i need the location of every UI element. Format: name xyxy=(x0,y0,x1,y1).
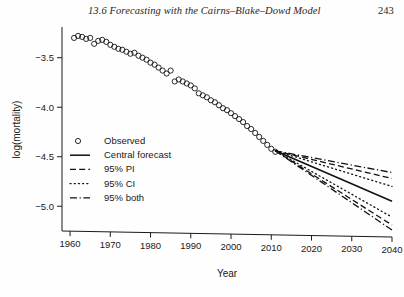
x-tick-label: 2040 xyxy=(381,244,402,255)
observed-point xyxy=(249,126,254,131)
chart-canvas: −3.5−4.0−4.5−5.0196019701980199020002010… xyxy=(0,22,404,297)
x-tick-label: 2000 xyxy=(220,241,241,252)
book-page: 13.6 Forecasting with the Cairns–Blake–D… xyxy=(0,0,404,297)
x-tick-label: 1960 xyxy=(59,238,80,249)
axes-group: −3.5−4.0−4.5−5.0196019701980199020002010… xyxy=(35,27,402,255)
forecast-line xyxy=(275,151,392,217)
legend-group: ObservedCentral forecast95% PI95% CI95% … xyxy=(70,135,171,203)
legend-label: 95% CI xyxy=(104,178,135,189)
labels-group: log(mortality)Year xyxy=(11,101,238,279)
legend-label: 95% PI xyxy=(104,163,135,174)
forecast-line xyxy=(275,151,392,179)
running-head: 13.6 Forecasting with the Cairns–Blake–D… xyxy=(0,2,404,24)
observed-points xyxy=(71,33,277,154)
forecast-line xyxy=(275,151,392,187)
forecast-line xyxy=(275,151,392,202)
observed-point xyxy=(253,130,258,135)
observed-point xyxy=(257,134,262,139)
legend-label: 95% both xyxy=(104,192,144,203)
y-tick-label: −3.5 xyxy=(35,52,54,63)
observed-point xyxy=(240,119,245,124)
observed-point xyxy=(192,86,197,91)
observed-point xyxy=(168,68,173,73)
x-tick-label: 2030 xyxy=(341,243,362,254)
figure-mortality-forecast: −3.5−4.0−4.5−5.0196019701980199020002010… xyxy=(0,22,404,297)
x-axis-label: Year xyxy=(217,268,238,279)
y-tick-label: −4.5 xyxy=(35,151,54,162)
page-folio: 243 xyxy=(378,5,394,16)
observed-point xyxy=(261,138,266,143)
legend-label: Central forecast xyxy=(104,149,171,160)
x-tick-label: 1980 xyxy=(140,240,161,251)
x-tick-label: 2010 xyxy=(261,242,282,253)
observed-point xyxy=(265,142,270,147)
x-tick-label: 2020 xyxy=(301,243,322,254)
legend-marker-observed xyxy=(75,138,80,143)
legend-label: Observed xyxy=(104,135,145,146)
y-tick-label: −5.0 xyxy=(35,201,54,212)
x-tick-label: 1970 xyxy=(100,239,121,250)
x-tick-label: 1990 xyxy=(180,240,201,251)
y-tick-label: −4.0 xyxy=(35,102,54,113)
running-head-title: 13.6 Forecasting with the Cairns–Blake–D… xyxy=(88,5,321,16)
y-axis-label: log(mortality) xyxy=(11,101,22,159)
x-axis-line xyxy=(62,231,392,237)
